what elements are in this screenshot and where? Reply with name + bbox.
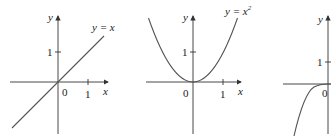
y-tick-label: 1 [317,56,323,68]
y-tick-label: 1 [182,46,188,58]
origin-label: 0 [62,86,68,98]
graph-cubic: y 1 0 [283,13,331,136]
y-axis-label: y [182,11,188,23]
function-label: y = x [91,21,115,33]
graph-quadratic: y 1 0 1 x y = x2 [146,4,252,134]
x-tick-label: 1 [220,88,226,100]
function-label-exponent: 2 [248,4,252,12]
function-graphs: y 1 0 1 x y = x y 1 0 1 x y = x2 y 1 0 [0,0,331,136]
function-label: y = x2 [224,4,252,17]
y-tick-label: 1 [47,46,53,58]
y-axis-label: y [317,13,323,25]
origin-label: 0 [183,87,189,99]
x-axis-label: x [237,85,243,97]
y-axis-label: y [47,11,53,23]
x-axis-label: x [102,85,108,97]
x-tick-label: 1 [85,88,91,100]
origin-label: 0 [322,87,328,99]
graph-linear: y 1 0 1 x y = x [10,11,115,134]
function-label-base: y = x [224,5,248,17]
